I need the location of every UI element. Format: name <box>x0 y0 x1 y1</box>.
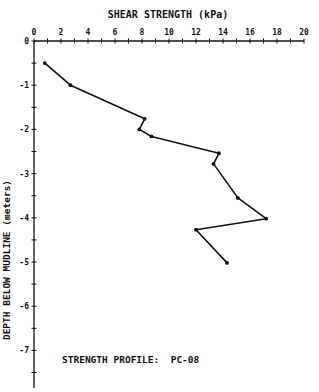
x-tick-label: 14 <box>218 28 228 37</box>
x-tick-label: 6 <box>113 28 118 37</box>
y-axis: 0-1-2-3-4-5-6-7 <box>19 37 36 388</box>
data-point <box>264 217 268 221</box>
y-tick-label: -3 <box>19 170 29 179</box>
x-tick-label: 4 <box>86 28 91 37</box>
y-tick-label: 0 <box>24 37 29 46</box>
strength-profile-annotation: STRENGTH PROFILE: PC-08 <box>62 354 200 365</box>
data-point <box>212 162 216 166</box>
data-point <box>236 196 240 200</box>
chart-title: SHEAR STRENGTH (kPa) <box>108 9 228 20</box>
data-point <box>194 228 198 232</box>
x-tick-label: 10 <box>164 28 174 37</box>
y-tick-label: -2 <box>19 125 29 134</box>
x-tick-label: 0 <box>32 28 37 37</box>
y-tick-label: -7 <box>19 346 29 355</box>
x-axis: 02468101214161820 <box>32 28 309 44</box>
data-point <box>69 83 73 87</box>
x-tick-label: 8 <box>140 28 145 37</box>
y-tick-label: -6 <box>19 302 29 311</box>
y-tick-label: -1 <box>19 81 29 90</box>
profile-line <box>45 63 266 263</box>
y-axis-label: DEPTH BELOW MUDLINE (meters) <box>1 180 12 340</box>
data-point <box>43 61 47 65</box>
y-tick-label: -5 <box>19 258 29 267</box>
data-point <box>150 135 154 139</box>
data-point <box>137 127 141 131</box>
x-tick-label: 20 <box>299 28 309 37</box>
strength-profile-chart: SHEAR STRENGTH (kPa) 02468101214161820 0… <box>0 0 319 392</box>
x-tick-label: 2 <box>59 28 64 37</box>
data-series <box>43 61 268 265</box>
y-tick-label: -4 <box>19 214 29 223</box>
x-tick-label: 16 <box>245 28 255 37</box>
data-point <box>217 151 221 155</box>
data-point <box>143 117 147 121</box>
x-tick-label: 12 <box>191 28 201 37</box>
x-tick-label: 18 <box>272 28 282 37</box>
data-point <box>225 261 229 265</box>
